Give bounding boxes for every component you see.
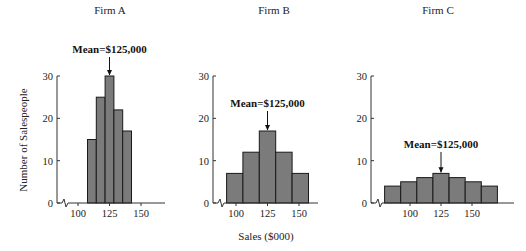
- mean-annotation: Mean=$125,000: [404, 138, 479, 150]
- histogram-bar: [114, 110, 123, 203]
- histogram-bar: [433, 173, 449, 203]
- x-tick-label: 150: [133, 208, 149, 219]
- panel-title: Firm B: [258, 4, 289, 16]
- histogram-bar: [465, 182, 481, 203]
- panel-title: Firm A: [94, 4, 126, 16]
- histogram-bar: [417, 178, 433, 203]
- x-axis-label: Sales ($000): [238, 230, 294, 243]
- x-tick-label: 150: [464, 208, 480, 219]
- histogram-bar: [292, 173, 308, 203]
- x-tick-label: 100: [70, 208, 86, 219]
- histogram-bar: [105, 76, 114, 203]
- y-tick-label: 30: [43, 71, 54, 82]
- y-tick-label: 20: [199, 113, 210, 124]
- x-tick-label: 125: [433, 208, 449, 219]
- histogram-bar: [385, 186, 401, 203]
- x-tick-label: 125: [260, 208, 276, 219]
- x-tick-label: 100: [228, 208, 244, 219]
- arrowhead-icon: [439, 167, 444, 173]
- panel-title: Firm C: [422, 4, 453, 16]
- arrowhead-icon: [107, 70, 112, 76]
- y-tick-label: 20: [43, 113, 54, 124]
- y-tick-label: 30: [199, 71, 210, 82]
- y-tick-label: 30: [357, 71, 368, 82]
- histogram-bar: [276, 152, 292, 203]
- y-tick-label: 0: [362, 198, 367, 209]
- x-tick-label: 125: [102, 208, 118, 219]
- arrowhead-icon: [265, 125, 270, 131]
- histogram-figure: Firm A0102030100125150Mean=$125,000Firm …: [0, 0, 526, 251]
- y-tick-label: 10: [357, 156, 368, 167]
- histogram-bar: [449, 178, 465, 203]
- mean-annotation: Mean=$125,000: [230, 97, 305, 109]
- histogram-bar: [243, 152, 259, 203]
- y-axis-label: Number of Salespeople: [17, 88, 29, 191]
- histogram-bar: [96, 97, 105, 203]
- y-tick-label: 0: [204, 198, 209, 209]
- histogram-bar: [227, 173, 243, 203]
- y-tick-label: 0: [48, 198, 53, 209]
- y-tick-label: 10: [199, 156, 210, 167]
- panel-firm-b: Firm B0102030100125150Mean=$125,000: [199, 4, 319, 219]
- x-tick-label: 100: [402, 208, 418, 219]
- histogram-bar: [88, 140, 97, 204]
- y-tick-label: 10: [43, 156, 54, 167]
- y-tick-label: 20: [357, 113, 368, 124]
- mean-annotation: Mean=$125,000: [72, 43, 147, 55]
- histogram-bar: [259, 131, 275, 203]
- x-tick-label: 150: [291, 208, 307, 219]
- histogram-bar: [401, 182, 417, 203]
- histogram-bar: [481, 186, 497, 203]
- histogram-bar: [123, 131, 132, 203]
- panel-firm-c: Firm C0102030100125150Mean=$125,000: [357, 4, 515, 219]
- panel-firm-a: Firm A0102030100125150Mean=$125,000: [43, 4, 166, 219]
